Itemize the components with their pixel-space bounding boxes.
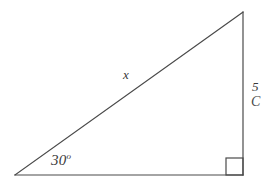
angle-value: 30 [51,152,66,168]
angle-label: 30o [51,152,71,168]
triangle-hypotenuse-line [15,12,243,175]
degree-symbol-icon: o [66,151,71,161]
diagram-canvas: 30o x 5 C [0,0,264,188]
triangle-figure [0,0,264,188]
opposite-side-label: 5 [252,80,259,93]
opposite-side-label-clipped: C [251,95,260,109]
hypotenuse-label: x [123,68,129,81]
right-angle-marker-icon [226,158,243,175]
